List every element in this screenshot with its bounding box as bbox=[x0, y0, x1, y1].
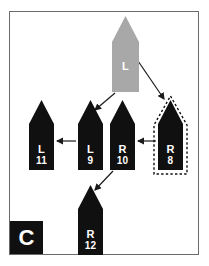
node-root: L bbox=[112, 16, 139, 92]
node-r10: R10 bbox=[110, 100, 135, 170]
node-shape-l9 bbox=[78, 100, 103, 170]
node-shape-r8 bbox=[158, 100, 183, 170]
node-r8: R8 bbox=[158, 100, 183, 170]
node-shape-r10 bbox=[110, 100, 135, 170]
figure-panel-c: LL11L9R10R8R12 C bbox=[0, 0, 209, 266]
arrow-root-to-r8 bbox=[136, 58, 164, 99]
node-shape-r12 bbox=[78, 185, 103, 255]
node-r12: R12 bbox=[78, 185, 103, 255]
node-l9: L9 bbox=[78, 100, 103, 170]
node-l11: L11 bbox=[29, 100, 54, 170]
node-shape-root bbox=[112, 16, 139, 92]
node-shape-l11 bbox=[29, 100, 54, 170]
panel-tag-c: C bbox=[10, 221, 43, 254]
